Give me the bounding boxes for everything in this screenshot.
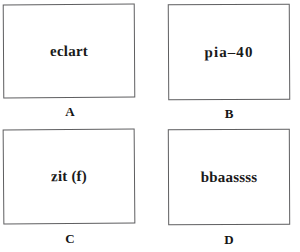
panel-b-text: pia–40: [204, 44, 253, 59]
panel-a-box: eclart: [3, 4, 136, 99]
panel-c-label: C: [3, 232, 137, 245]
panel-d-box: bbaassss: [168, 129, 290, 226]
panel-c: zit (f) C: [3, 129, 137, 247]
panel-d: bbaassss D: [168, 129, 298, 247]
panel-b-box: pia–40: [168, 4, 291, 101]
panel-c-text: zit (f): [51, 169, 87, 184]
panel-b: pia–40 B: [168, 4, 298, 120]
four-panel-figure: eclart A pia–40 B zit (f) C bbaassss D: [0, 0, 300, 252]
panel-d-text: bbaassss: [201, 169, 258, 184]
panel-c-box: zit (f): [3, 128, 136, 224]
panel-d-label: D: [168, 233, 290, 246]
panel-a-label: A: [3, 105, 137, 118]
panel-b-label: B: [168, 107, 290, 120]
panel-a-text: eclart: [50, 43, 88, 58]
panel-a: eclart A: [3, 4, 137, 120]
